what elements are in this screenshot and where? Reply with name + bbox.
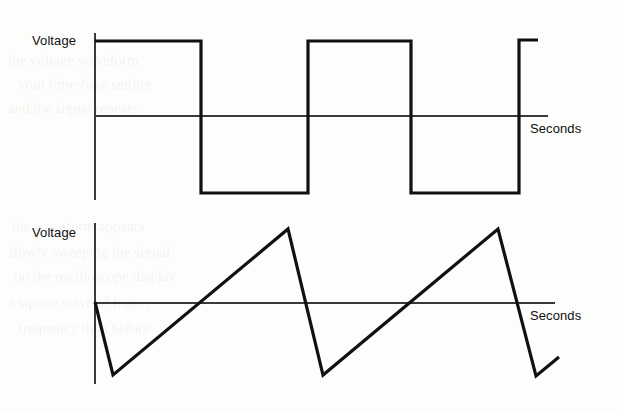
figure-container: the voltage waveform your time-base sett…	[0, 0, 618, 413]
square-wave-plot: Voltage Seconds	[32, 33, 582, 200]
square-wave-voltage-label: Voltage	[32, 33, 76, 48]
sawtooth-wave-seconds-label: Seconds	[530, 308, 582, 323]
sawtooth-wave-voltage-label: Voltage	[32, 225, 76, 240]
sawtooth-wave-plot: Voltage Seconds	[32, 223, 582, 384]
waveform-diagram: Voltage Seconds Voltage Seconds	[0, 0, 618, 413]
square-wave-seconds-label: Seconds	[530, 121, 582, 136]
